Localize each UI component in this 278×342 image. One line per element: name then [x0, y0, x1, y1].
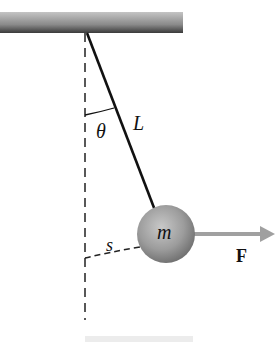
arc-label: s [106, 235, 113, 256]
ceiling-support [0, 12, 183, 33]
caption-remnant [85, 336, 193, 342]
force-arrow-head [260, 226, 275, 242]
pendulum-diagram [0, 0, 278, 342]
force-label: F [236, 246, 247, 267]
angle-label: θ [96, 120, 106, 143]
length-label: L [133, 112, 144, 135]
mass-label: m [157, 221, 171, 244]
angle-arc [85, 108, 114, 115]
